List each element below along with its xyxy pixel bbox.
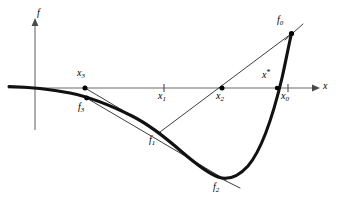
point-dot-x3: [83, 86, 88, 91]
label-x3: x3: [77, 68, 85, 78]
f-axis-arrowhead: [32, 18, 39, 26]
figure-canvas: [0, 0, 339, 209]
f-axis-label: f: [37, 8, 40, 18]
label-x1: x1: [158, 91, 166, 101]
secant-line-f3-f2: [87, 98, 227, 180]
function-curve: [9, 34, 292, 179]
label-x2: x2: [216, 91, 224, 101]
x-axis-arrowhead: [312, 85, 320, 92]
secant-method-figure: f x f0 x0 x* x1 x2 x3 f1 f2 f3: [0, 0, 339, 209]
x-axis-label: x: [323, 81, 327, 91]
label-x-star: x*: [262, 70, 270, 80]
label-x0: x0: [281, 91, 289, 101]
point-dot-f0: [289, 31, 294, 36]
label-f1: f1: [149, 135, 155, 145]
point-dot-f3: [84, 96, 89, 101]
point-dot-xstar: [275, 86, 279, 90]
label-f0: f0: [277, 15, 283, 25]
label-f3: f3: [78, 102, 84, 112]
tangent-mark-f0: [285, 24, 303, 40]
label-f2: f2: [213, 182, 219, 192]
